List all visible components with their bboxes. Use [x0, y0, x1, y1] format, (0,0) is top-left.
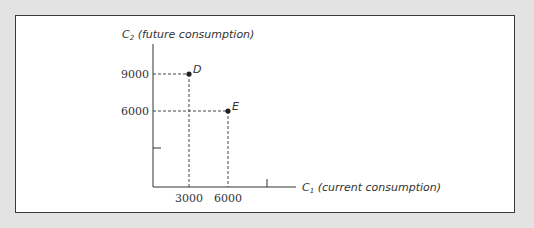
point-e-label: E	[232, 100, 239, 113]
point-d	[186, 71, 191, 76]
y-tick-label-9000: 9000	[121, 68, 149, 81]
x-axis-label: C1 (current consumption)	[302, 181, 441, 195]
x-tick-label-6000: 6000	[214, 192, 242, 205]
y-axis-label: C2 (future consumption)	[122, 28, 254, 42]
x-tick-label-3000: 3000	[175, 192, 203, 205]
point-e	[225, 108, 230, 113]
consumption-chart: D E 9000 6000 3000 6000 C2 (future consu…	[0, 0, 534, 228]
point-d-label: D	[193, 63, 201, 76]
y-tick-label-6000: 6000	[121, 105, 149, 118]
